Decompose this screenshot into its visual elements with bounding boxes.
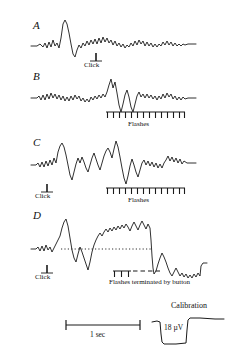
click-label-a: Click — [84, 62, 99, 69]
trace-b — [31, 79, 196, 112]
trace-a — [31, 20, 196, 57]
click-label-d: Click — [35, 274, 50, 281]
evoked-potential-figure: A Click B Flashes C Click Flashes D Clic… — [0, 0, 233, 358]
flashes-terminated-marker-d — [113, 271, 160, 277]
click-label-c: Click — [35, 193, 50, 200]
calibration-title: Calibration — [171, 302, 207, 310]
click-marker-d — [41, 265, 53, 273]
calibration-amplitude-label: 18 µV — [164, 324, 183, 332]
row-letter-d: D — [33, 210, 41, 221]
flashes-marker-b — [106, 112, 185, 118]
trace-d — [31, 219, 207, 278]
flashes-label-b: Flashes — [128, 121, 149, 128]
flashes-marker-c — [106, 188, 185, 194]
click-marker-a — [90, 53, 102, 61]
flashes-label-c: Flashes — [128, 197, 149, 204]
calibration-pulse — [152, 318, 224, 344]
row-letter-c: C — [33, 137, 40, 148]
trace-c — [31, 141, 196, 184]
row-letter-b: B — [33, 71, 40, 82]
flashes-terminated-label-d: Flashes terminated by button — [109, 279, 190, 286]
time-scale-label: 1 sec — [90, 331, 105, 339]
row-letter-a: A — [33, 20, 40, 31]
time-scale-bar — [66, 320, 140, 330]
click-marker-c — [41, 184, 53, 192]
